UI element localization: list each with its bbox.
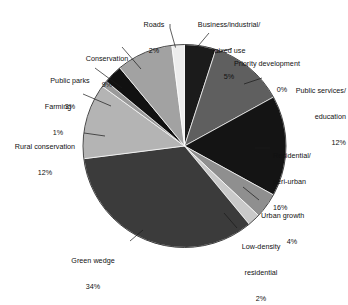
label-green-wedge-value: 34% — [57, 283, 129, 292]
label-green-wedge: Green wedge 34% — [57, 240, 129, 305]
label-conservation-text: Conservation — [76, 55, 138, 64]
label-roads-text: Roads — [126, 21, 182, 30]
label-urban-growth-text: Urban growth — [261, 212, 345, 221]
label-business-industrial-text-line1: Business/industrial/ — [181, 21, 277, 30]
label-low-density-value: 2% — [228, 295, 294, 304]
label-residential-text-line2: peri-urban — [273, 178, 348, 187]
label-farming-value: 1% — [36, 129, 80, 138]
label-priority-development-text: Priority development — [234, 60, 348, 69]
label-conservation: Conservation 9% — [76, 38, 138, 107]
label-public-services-text-line1: Public services/ — [258, 87, 346, 96]
label-low-density-residential: Low-density residential 2% — [228, 226, 294, 305]
label-green-wedge-text: Green wedge — [57, 257, 129, 266]
label-public-services-text-line2: education — [258, 113, 346, 122]
label-rural-conservation-value: 12% — [6, 169, 84, 178]
label-conservation-value: 9% — [76, 81, 138, 90]
label-low-density-text-line1: Low-density — [228, 243, 294, 252]
label-residential-text-line1: Residential/ — [273, 152, 348, 161]
label-low-density-text-line2: residential — [228, 269, 294, 278]
